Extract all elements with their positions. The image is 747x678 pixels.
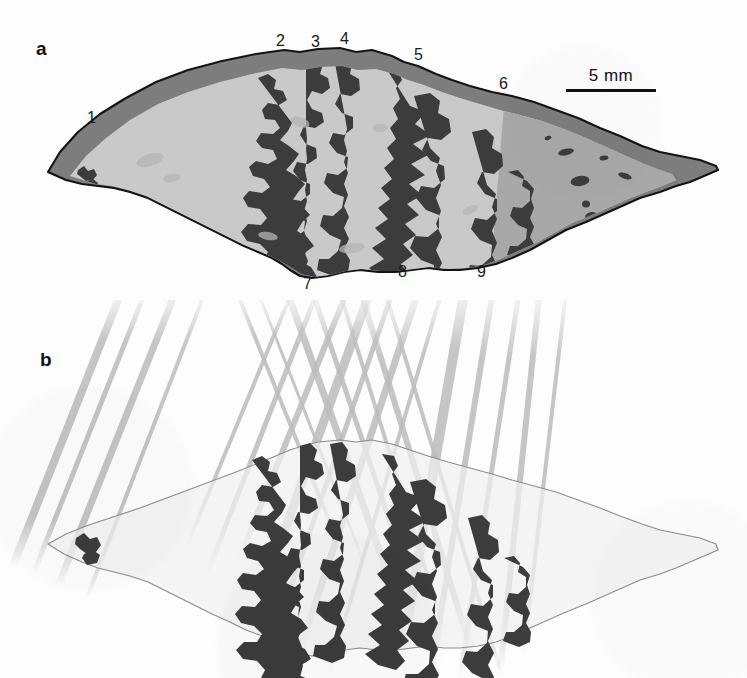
panel-a-label: a (36, 38, 47, 60)
panel-b-graphic (0, 300, 747, 678)
scale-bar-label: 5 mm (566, 66, 656, 86)
band-number-6: 6 (499, 76, 508, 92)
band-number-1: 1 (87, 110, 96, 126)
band-number-5: 5 (414, 47, 423, 63)
band-number-7: 7 (303, 276, 312, 292)
band-number-9: 9 (477, 264, 486, 280)
figure-container: a 2 3 4 5 6 1 7 8 9 5 mm (0, 0, 747, 678)
panel-a-graphic (0, 0, 747, 310)
band-number-8: 8 (398, 264, 407, 280)
band-number-2: 2 (276, 33, 285, 49)
scale-bar: 5 mm (566, 66, 656, 92)
band-number-3: 3 (311, 34, 320, 50)
scale-bar-line (566, 89, 656, 92)
band-number-4: 4 (340, 31, 349, 47)
panel-b-label: b (40, 349, 52, 371)
